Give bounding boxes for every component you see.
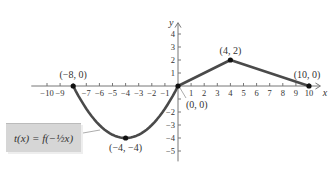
x-tick-label: 5 xyxy=(241,88,245,98)
x-tick-label: −4 xyxy=(121,88,131,98)
x-tick-label: −1 xyxy=(160,88,169,98)
x-tick-label: −10 xyxy=(40,88,53,98)
y-tick-label: −2 xyxy=(166,107,175,117)
x-tick-label: 10 xyxy=(305,88,314,98)
y-tick-label: 2 xyxy=(171,55,175,65)
point-label: (−4, −4) xyxy=(109,142,142,154)
y-tick-label: −5 xyxy=(166,146,175,156)
point-label: (−8, 0) xyxy=(60,69,87,81)
y-tick-label: 4 xyxy=(171,29,176,39)
point-label: (0, 0) xyxy=(186,99,208,111)
x-axis-label: x xyxy=(322,87,328,98)
y-tick-label: −4 xyxy=(166,133,176,143)
data-point xyxy=(228,57,233,62)
leader-line xyxy=(180,88,186,98)
data-point xyxy=(175,83,180,88)
data-point xyxy=(306,83,311,88)
function-legend: t(x) = f(−½x) xyxy=(6,123,81,152)
x-tick-label: 9 xyxy=(294,88,298,98)
y-tick-label: 3 xyxy=(171,42,175,52)
x-tick-label: −5 xyxy=(108,88,117,98)
x-tick-label: −6 xyxy=(95,88,104,98)
y-axis-label: y xyxy=(168,17,174,28)
x-tick-label: −3 xyxy=(134,88,143,98)
data-point xyxy=(123,135,128,140)
x-tick-label: −9 xyxy=(56,88,65,98)
legend-leader-line xyxy=(83,130,100,133)
data-point xyxy=(71,83,76,88)
x-tick-label: 1 xyxy=(189,88,193,98)
point-label: (10, 0) xyxy=(294,69,321,81)
x-tick-label: 4 xyxy=(228,88,233,98)
x-tick-label: 7 xyxy=(268,88,272,98)
y-tick-label: 1 xyxy=(171,68,175,78)
x-tick-label: 2 xyxy=(202,88,206,98)
y-tick-label: −3 xyxy=(166,120,175,130)
x-tick-label: 8 xyxy=(281,88,285,98)
x-tick-label: 3 xyxy=(215,88,219,98)
x-tick-label: −2 xyxy=(147,88,156,98)
x-tick-label: 6 xyxy=(254,88,258,98)
x-tick-label: −7 xyxy=(82,88,91,98)
point-label: (4, 2) xyxy=(220,45,242,57)
